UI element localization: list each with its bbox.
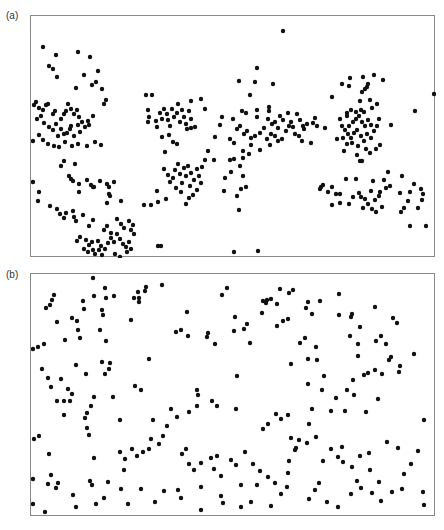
data-point [279,492,283,496]
data-point [59,127,63,131]
data-point [126,502,130,506]
data-point [83,125,87,129]
data-point [179,190,183,194]
data-point [87,224,91,228]
data-point [91,218,95,222]
data-point [368,151,372,155]
data-point [273,134,277,138]
data-point [304,306,308,310]
data-point [370,207,374,211]
data-point [249,143,253,147]
data-point [357,114,361,118]
data-point [265,298,269,302]
data-point [412,182,416,186]
data-point [178,172,182,176]
data-point [330,95,334,99]
data-point [408,224,412,228]
data-point [81,213,85,217]
data-point [199,485,203,489]
data-point [291,288,295,292]
data-point [124,245,128,249]
data-point [361,206,365,210]
data-point [44,306,48,310]
data-point [266,422,270,426]
data-point [41,45,45,49]
data-point [260,311,264,315]
data-point [90,83,94,87]
data-point [266,475,270,479]
data-point [63,140,67,144]
data-point [232,329,236,333]
data-point [52,293,56,297]
data-point [170,107,174,111]
data-point [112,294,116,298]
data-point [313,488,317,492]
data-point [372,73,376,77]
data-point [64,211,68,215]
data-point [398,191,402,195]
data-point [261,427,265,431]
data-point [355,153,359,157]
data-point [387,358,391,362]
data-point [51,128,55,132]
data-point [144,285,148,289]
data-point [351,195,355,199]
data-point [115,217,119,221]
data-point [68,399,72,403]
data-point [397,370,401,374]
data-point [99,244,103,248]
data-point [354,177,358,181]
data-point [258,469,262,473]
data-point [84,238,88,242]
data-point [47,125,51,129]
data-point [92,456,96,460]
data-point [281,319,285,323]
data-point [399,210,403,214]
data-point [412,352,416,356]
data-point [187,196,191,200]
data-point [337,313,341,317]
data-point [416,206,420,210]
data-point [91,276,95,280]
data-point [375,124,379,128]
data-point [139,487,143,491]
data-point [85,178,89,182]
data-point [213,342,217,346]
data-point [220,293,224,297]
data-point [149,437,153,441]
data-point [406,199,410,203]
data-point [247,152,251,156]
data-point [192,468,196,472]
data-point [348,334,352,338]
data-point [93,140,97,144]
data-point [268,143,272,147]
data-point [73,162,77,166]
data-point [62,216,66,220]
data-point [388,184,392,188]
data-point [344,177,348,181]
data-point [367,451,371,455]
data-point [222,189,226,193]
data-point [96,239,100,243]
data-point [273,120,277,124]
data-point [368,468,372,472]
data-point [400,174,404,178]
data-point [184,447,188,451]
data-point [76,328,80,332]
data-point [158,111,162,115]
data-point [284,129,288,133]
data-point [186,334,190,338]
data-point [135,454,139,458]
data-point [295,112,299,116]
data-point [62,159,66,163]
data-point [162,167,166,171]
data-point [99,143,103,147]
data-point [31,180,35,184]
data-point [44,103,48,107]
data-point [59,117,63,121]
data-point [111,395,115,399]
data-point [41,138,45,142]
data-point [162,489,166,493]
data-point [160,283,164,287]
data-point [122,226,126,230]
